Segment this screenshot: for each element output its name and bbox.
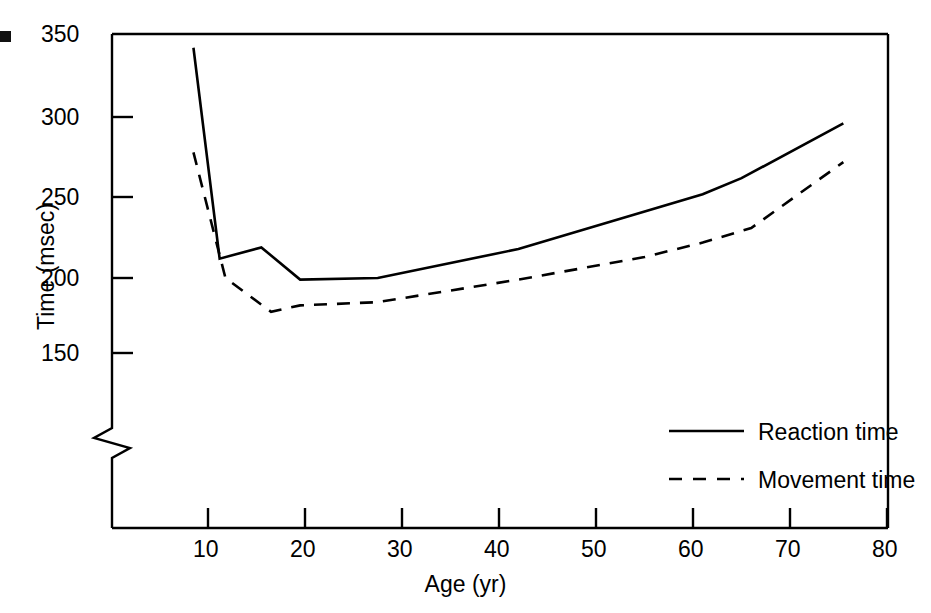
y-tick-label-150: 150 [41, 340, 79, 367]
x-axis-ticks [208, 508, 887, 528]
data-series-group [193, 48, 843, 312]
x-tick-label-80: 80 [872, 536, 898, 563]
figure-canvas: 350 300 250 200 150 Time (msec) 10 20 30… [0, 0, 931, 613]
y-tick-label-350: 350 [41, 21, 79, 48]
x-tick-label-50: 50 [581, 536, 607, 563]
y-axis-title: Time (msec) [33, 203, 60, 330]
y-axis-ticks [112, 117, 133, 353]
x-axis-title: Age (yr) [0, 571, 931, 598]
legend-label-reaction-time: Reaction time [758, 419, 899, 446]
x-tick-label-20: 20 [290, 536, 316, 563]
x-tick-label-10: 10 [193, 536, 219, 563]
x-tick-label-70: 70 [775, 536, 801, 563]
x-tick-label-60: 60 [678, 536, 704, 563]
line-chart-plot [0, 0, 931, 613]
plot-frame [94, 34, 888, 528]
y-tick-label-300: 300 [41, 104, 79, 131]
legend-samples [669, 431, 744, 479]
legend-label-movement-time: Movement time [758, 467, 915, 494]
y-axis-break-zigzag [94, 424, 130, 528]
x-tick-label-40: 40 [484, 536, 510, 563]
x-tick-label-30: 30 [387, 536, 413, 563]
series-line-reaction-time [193, 48, 843, 280]
